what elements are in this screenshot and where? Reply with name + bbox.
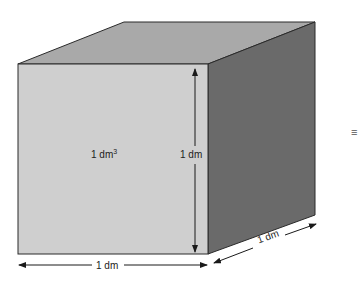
cube-diagram — [0, 0, 361, 283]
equivalence-text: ≡ — [351, 126, 357, 138]
volume-exponent: 3 — [113, 148, 117, 155]
width-label: 1 dm — [96, 261, 118, 271]
width-text: 1 dm — [96, 260, 118, 271]
height-label: 1 dm — [180, 150, 202, 160]
height-text: 1 dm — [180, 149, 202, 160]
equivalence-symbol: ≡ — [351, 127, 357, 138]
volume-text: 1 dm — [91, 149, 113, 160]
volume-label: 1 dm3 — [91, 150, 117, 160]
